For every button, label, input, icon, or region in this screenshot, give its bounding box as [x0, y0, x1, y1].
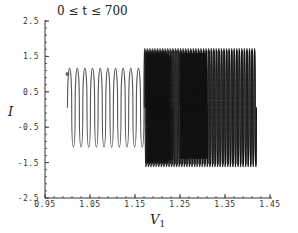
trajectory-curve — [66, 48, 257, 167]
x-ticks: 0.951.051.151.251.351.45 — [34, 194, 280, 209]
y-tick-label: 1.5 — [23, 52, 39, 61]
dense-inner-block-path — [184, 58, 207, 155]
y-tick-label: -1.5 — [18, 159, 39, 168]
x-tick-label: 1.15 — [124, 200, 145, 209]
x-tick-label: 1.05 — [79, 200, 100, 209]
y-ticks: 2.51.50.5-0.5-1.5-2.5 — [18, 17, 49, 203]
x-axis-label-sub: 1 — [159, 219, 165, 229]
dense-band-edge-path — [151, 56, 174, 159]
start-point-marker — [66, 72, 70, 76]
x-axis-label: V1 — [150, 212, 165, 229]
y-tick-label: 2.5 — [23, 17, 39, 26]
x-tick-label: 1.25 — [169, 200, 190, 209]
chart-title: 0 ≤ t ≤ 700 — [57, 4, 128, 18]
y-tick-label: -2.5 — [18, 194, 39, 203]
y-tick-label: 0.5 — [23, 88, 39, 97]
transient-oscillation-path — [68, 68, 145, 147]
x-tick-label: 1.35 — [214, 200, 235, 209]
phase-portrait-chart: 0 ≤ t ≤ 700 0.951.051.151.251.351.45 2.5… — [0, 0, 298, 233]
y-tick-label: -0.5 — [18, 123, 39, 132]
x-tick-label: 1.45 — [259, 200, 280, 209]
y-axis-label: I — [7, 104, 14, 119]
